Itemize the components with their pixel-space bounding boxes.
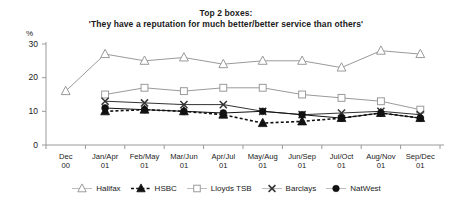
x-tick-line-2: 01 (397, 161, 443, 170)
series-layer (61, 46, 424, 127)
data-point-circle-filled (377, 110, 384, 117)
legend-marker-triangle-filled-icon (130, 183, 152, 194)
data-point-triangle-open (101, 49, 110, 57)
data-point-square-open (299, 91, 306, 98)
data-point-square-open (259, 84, 266, 91)
data-point-circle-filled (180, 108, 187, 115)
chart-container: Top 2 boxes: 'They have a reputation for… (0, 0, 452, 207)
plot-svg (0, 0, 452, 207)
y-axis-tick-label: 0 (18, 141, 38, 150)
data-point-square-open (377, 98, 384, 105)
legend-marker-triangle-open-icon (71, 183, 93, 194)
data-point-circle-filled (141, 106, 148, 113)
y-axis-tick-label: 30 (18, 40, 38, 49)
data-point-circle-filled (220, 110, 227, 117)
data-point-triangle-open (78, 184, 86, 192)
legend-marker-square-open-icon (186, 183, 208, 194)
legend-item-natwest[interactable]: NatWest (325, 183, 381, 194)
legend-label: Halifax (96, 184, 120, 193)
data-point-circle-filled (102, 105, 109, 112)
y-axis-tick-label: 20 (18, 73, 38, 82)
series-line (66, 51, 421, 91)
data-point-circle-filled (417, 115, 424, 122)
data-point-triangle-open (298, 56, 307, 64)
data-point-square-open (180, 88, 187, 95)
legend-item-lloyds-tsb[interactable]: Lloyds TSB (186, 183, 252, 194)
data-point-square-open (338, 94, 345, 101)
legend-marker-circle-filled-icon (325, 183, 347, 194)
legend-label: NatWest (350, 184, 381, 193)
data-point-square-open (220, 84, 227, 91)
data-point-circle-filled (338, 115, 345, 122)
plot-area (0, 0, 452, 207)
data-point-circle-filled (333, 185, 340, 192)
data-point-square-open (102, 91, 109, 98)
data-point-square-open (141, 84, 148, 91)
legend-item-hsbc[interactable]: HSBC (130, 183, 177, 194)
y-axis-tick-label: 10 (18, 107, 38, 116)
legend-label: Lloyds TSB (211, 184, 252, 193)
data-point-circle-filled (259, 108, 266, 115)
data-point-triangle-open (376, 46, 385, 54)
x-tick-line-1: Sep/Dec (397, 152, 443, 161)
data-point-triangle-open (179, 53, 188, 61)
data-point-square-open (194, 185, 201, 192)
data-point-triangle-open (258, 56, 267, 64)
chart-legend: HalifaxHSBCLloyds TSBBarclaysNatWest (0, 183, 452, 194)
legend-label: HSBC (155, 184, 177, 193)
data-point-circle-filled (299, 111, 306, 118)
legend-label: Barclays (286, 184, 317, 193)
legend-marker-cross-icon (261, 183, 283, 194)
x-axis-tick-label: Sep/Dec01 (397, 152, 443, 170)
legend-item-barclays[interactable]: Barclays (261, 183, 317, 194)
legend-item-halifax[interactable]: Halifax (71, 183, 120, 194)
